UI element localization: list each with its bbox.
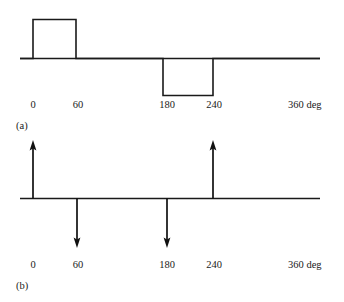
panel-a: 0 60 180 240 360 deg (a) xyxy=(16,20,322,133)
impulse-up-0deg xyxy=(30,140,37,199)
panel-a-waveform-path xyxy=(20,20,320,96)
panel-a-tick-label-0: 0 xyxy=(30,99,35,110)
impulse-up-240deg xyxy=(210,140,217,199)
panel-b-tick-label-240: 240 xyxy=(206,259,222,270)
impulse-down-180deg xyxy=(164,199,171,249)
panel-b: 0 60 180 240 360 deg (b) xyxy=(16,140,322,292)
panel-b-tick-label-180: 180 xyxy=(159,259,175,270)
panel-a-axis-unit-label: 360 deg xyxy=(288,99,322,110)
figure-root: 0 60 180 240 360 deg (a) xyxy=(0,0,344,302)
panel-b-axis-unit-label: 360 deg xyxy=(288,259,322,270)
impulse-down-60deg xyxy=(74,199,81,249)
panel-a-caption: (a) xyxy=(16,120,28,132)
panel-a-tick-label-240: 240 xyxy=(206,99,222,110)
waveform-figure: 0 60 180 240 360 deg (a) xyxy=(0,0,344,302)
panel-b-tick-label-0: 0 xyxy=(30,259,35,270)
panel-a-tick-label-60: 60 xyxy=(73,99,84,110)
panel-b-caption: (b) xyxy=(16,280,29,292)
panel-b-tick-label-60: 60 xyxy=(73,259,84,270)
panel-a-tick-label-180: 180 xyxy=(159,99,175,110)
